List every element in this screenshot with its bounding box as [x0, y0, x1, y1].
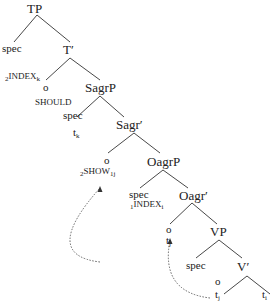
node-index-k: 2INDEXk [5, 72, 40, 81]
node-oagr-bar: Oagr′ [179, 189, 208, 202]
node-spec-vp: spec [186, 260, 206, 271]
node-trace-j-oagr: tj [166, 235, 171, 246]
node-v-bar: V′ [237, 260, 249, 273]
tree-edges [0, 0, 275, 302]
node-should: SHOULD [35, 98, 72, 107]
node-oagrp: OagrP [147, 155, 180, 168]
node-t-i: ti [262, 289, 267, 300]
node-spec-tp: spec [2, 43, 22, 54]
node-sagrp: SagrP [85, 81, 116, 94]
syntax-tree-diagram: TP spec T′ 2INDEXk o SagrP SHOULD spec S… [0, 0, 275, 302]
node-index-i: 1INDEXi [130, 200, 163, 209]
node-show: 2SHOW1j [80, 167, 115, 176]
node-sagr-bar: Sagr′ [116, 118, 143, 131]
node-o-t: o [43, 82, 49, 93]
node-vp: VP [210, 225, 227, 238]
node-t-bar: T′ [63, 43, 74, 56]
node-t-k: tk [73, 127, 80, 138]
node-t-j-v: tj [215, 289, 220, 300]
node-tp: TP [27, 2, 42, 15]
node-o-sagr: o [104, 155, 110, 166]
node-o-v: o [215, 276, 221, 287]
node-spec-sagr: spec [63, 110, 83, 121]
